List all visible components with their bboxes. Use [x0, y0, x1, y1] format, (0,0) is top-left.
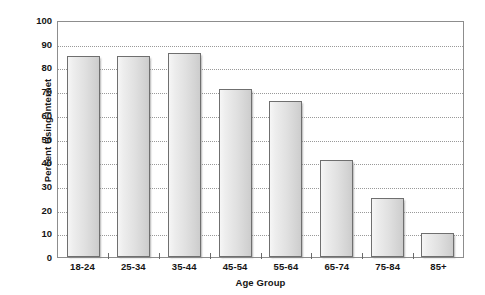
x-axis-tick-mark — [159, 253, 160, 259]
bars-container — [58, 22, 463, 257]
bar[interactable] — [371, 198, 404, 257]
y-axis-tick-labels: 0102030405060708090100 — [24, 21, 52, 258]
x-axis-tick-label: 35-44 — [159, 261, 210, 272]
x-axis-tick-label: 85+ — [413, 261, 464, 272]
bar-slot — [159, 22, 210, 257]
y-axis-tick-label: 80 — [24, 64, 52, 74]
y-axis-tick-label: 40 — [24, 158, 52, 168]
y-axis-tick-label: 100 — [24, 16, 52, 26]
x-axis-tick-label: 75-84 — [362, 261, 413, 272]
x-axis-tick-label: 45-54 — [210, 261, 261, 272]
plot-area — [57, 21, 464, 258]
x-axis-tick-mark — [108, 253, 109, 259]
bar-slot — [362, 22, 413, 257]
y-axis-tick-label: 50 — [24, 135, 52, 145]
bar[interactable] — [269, 101, 302, 257]
x-axis-title: Age Group — [57, 277, 464, 288]
x-axis-tick-marks — [57, 253, 464, 260]
bar-slot — [261, 22, 312, 257]
bar[interactable] — [219, 89, 252, 257]
x-axis-tick-mark — [210, 253, 211, 259]
bar-slot — [311, 22, 362, 257]
bar-chart-figure: Percent Using Internet 01020304050607080… — [0, 0, 485, 295]
bar-slot — [109, 22, 160, 257]
x-axis-tick-label: 18-24 — [57, 261, 108, 272]
x-axis-tick-labels: 18-2425-3435-4445-5455-6465-7475-8485+ — [57, 261, 464, 272]
x-axis-tick-label: 65-74 — [311, 261, 362, 272]
bar[interactable] — [67, 56, 100, 257]
x-axis-tick-label: 55-64 — [261, 261, 312, 272]
x-axis-tick-mark — [311, 253, 312, 259]
bar[interactable] — [117, 56, 150, 257]
x-axis-tick-mark — [362, 253, 363, 259]
bar-slot — [58, 22, 109, 257]
y-axis-tick-label: 0 — [24, 253, 52, 263]
y-axis-tick-label: 70 — [24, 87, 52, 97]
bar-slot — [210, 22, 261, 257]
y-axis-tick-label: 30 — [24, 182, 52, 192]
x-axis-tick-mark — [261, 253, 262, 259]
y-axis-tick-label: 90 — [24, 40, 52, 50]
x-axis-tick-label: 25-34 — [108, 261, 159, 272]
bar[interactable] — [168, 53, 201, 257]
bar[interactable] — [320, 160, 353, 257]
bar-slot — [412, 22, 463, 257]
y-axis-tick-label: 60 — [24, 111, 52, 121]
x-axis-tick-mark — [413, 253, 414, 259]
y-axis-tick-label: 10 — [24, 230, 52, 240]
y-axis-tick-label: 20 — [24, 206, 52, 216]
